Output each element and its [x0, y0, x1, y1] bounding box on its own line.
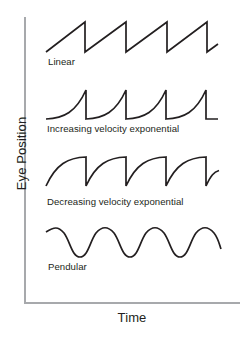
linear-waveform-trace — [0, 0, 247, 339]
y-axis-label: Eye Position — [14, 94, 29, 214]
waveform-label-decreasing-velocity-exponential: Decreasing velocity exponential — [47, 196, 183, 207]
x-axis-label: Time — [24, 310, 240, 325]
increasing-velocity-exponential-waveform-trace — [0, 0, 247, 339]
waveform-label-increasing-velocity-exponential: Increasing velocity exponential — [47, 123, 179, 134]
decreasing-velocity-exponential-waveform-trace — [0, 0, 247, 339]
waveform-label-pendular: Pendular — [48, 261, 87, 272]
waveform-traces — [0, 0, 247, 339]
pendular-waveform-trace — [0, 0, 247, 339]
nystagmus-waveform-figure: Eye Position Time Linear Increasing velo… — [0, 0, 247, 339]
x-axis-line — [24, 302, 240, 304]
waveform-label-linear: Linear — [48, 56, 75, 67]
